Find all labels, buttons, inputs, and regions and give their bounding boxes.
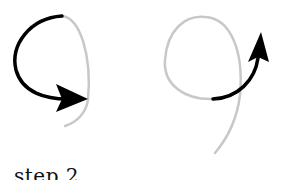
guide-stroke-right: [165, 17, 241, 153]
arrow-stroke-right: [213, 58, 258, 99]
right-panel: [165, 17, 269, 153]
arrow-stroke-left: [15, 16, 72, 99]
guide-stroke-left: [62, 16, 89, 126]
diagram-canvas: [0, 0, 286, 180]
step-caption: step 2: [14, 166, 79, 180]
left-panel: [15, 16, 89, 126]
